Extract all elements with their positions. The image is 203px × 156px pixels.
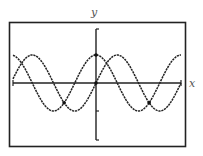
y-axis-label: y bbox=[90, 6, 98, 19]
marked-point bbox=[147, 101, 151, 105]
axes bbox=[13, 29, 181, 140]
marked-point bbox=[94, 81, 98, 85]
marked-point bbox=[62, 101, 66, 105]
graphing-calculator-plot: y x bbox=[0, 0, 203, 156]
marked-points bbox=[62, 53, 151, 104]
marked-point bbox=[94, 53, 98, 57]
viewing-window-frame bbox=[10, 23, 186, 147]
x-axis-label: x bbox=[189, 77, 196, 90]
